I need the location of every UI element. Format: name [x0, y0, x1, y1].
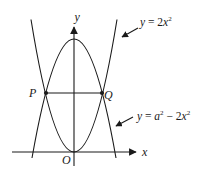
- y-axis-label: y: [74, 10, 81, 24]
- point-p-label: P: [28, 86, 37, 100]
- point-q-label: Q: [104, 88, 113, 102]
- lower-curve-equation: y = a2 − 2x2: [136, 109, 191, 123]
- upper-curve-equation: y = 2x2: [139, 15, 172, 29]
- parabola-diagram: y x O P Q y = 2x2 y = a2 − 2x2: [0, 0, 206, 171]
- point-p-marker: [44, 91, 48, 95]
- origin-label: O: [62, 153, 71, 167]
- x-axis-label: x: [141, 145, 148, 159]
- upper-curve-pointer-arrow-icon: [122, 28, 138, 37]
- lower-curve-pointer-arrow-icon: [116, 117, 133, 126]
